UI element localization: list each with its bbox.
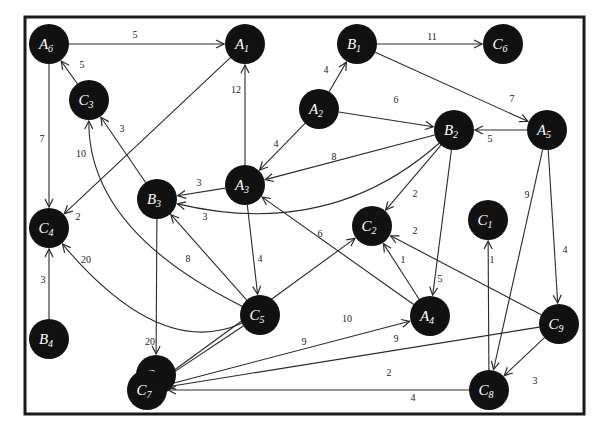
node-a1: A1: [225, 24, 265, 64]
node-c9: C9: [539, 304, 579, 344]
node-c4: C4: [29, 208, 69, 248]
node-b4: B4: [29, 319, 69, 359]
node-b2: B2: [434, 110, 474, 150]
edge-weight-label: 2: [387, 367, 392, 378]
edge-weight-label: 1: [490, 254, 495, 265]
node-c5: C5: [240, 295, 280, 335]
node-a5: A5: [527, 110, 567, 150]
edge-weight-label: 7: [40, 133, 45, 144]
edge-weight-label: 4: [274, 138, 279, 149]
edge-weight-label: 3: [41, 274, 46, 285]
edge-weight-label: 4: [324, 64, 329, 75]
edge-weight-label: 1: [401, 254, 406, 265]
edge-weight-label: 9: [525, 189, 530, 200]
edge-b3-to-b5: [156, 219, 157, 354]
edge-weight-label: 7: [510, 93, 515, 104]
node-b1: B1: [337, 24, 377, 64]
edge-weight-label: 5: [438, 273, 443, 284]
edge-weight-label: 6: [394, 94, 399, 105]
edge-weight-label: 8: [332, 151, 337, 162]
node-a4: A4: [410, 296, 450, 336]
edge-weight-label: 3: [197, 177, 202, 188]
node-b3: B3: [137, 179, 177, 219]
edge-weight-label: 2: [413, 225, 418, 236]
node-a6: A6: [29, 24, 69, 64]
node-c6: C6: [483, 24, 523, 64]
edge-weight-label: 5: [488, 133, 493, 144]
node-a2: A2: [299, 89, 339, 129]
edge-weight-label: 2: [413, 188, 418, 199]
edge-weight-label: 3: [533, 375, 538, 386]
edge-weight-label: 10: [76, 148, 86, 159]
edge-weight-label: 3: [203, 211, 208, 222]
node-c2: C2: [352, 206, 392, 246]
edge-weight-label: 8: [186, 253, 191, 264]
edge-weight-label: 4: [411, 392, 416, 403]
edge-weight-label: 20: [145, 336, 155, 347]
edge-weight-label: 2: [76, 211, 81, 222]
edge-weight-label: 12: [231, 84, 241, 95]
edge-weight-label: 5: [80, 59, 85, 70]
edge-weight-label: 11: [427, 31, 437, 42]
edge-weight-label: 5: [133, 29, 138, 40]
edge-weight-label: 3: [120, 123, 125, 134]
node-c7: C7: [127, 370, 167, 410]
node-c8: C8: [469, 370, 509, 410]
edge-weight-label: 6: [318, 228, 323, 239]
edge-weight-label: 20: [81, 254, 91, 265]
edge-weight-label: 4: [258, 253, 263, 264]
node-c3: C3: [69, 80, 109, 120]
edge-weight-label: 9: [302, 336, 307, 347]
graph-diagram: 5572124117654832533104820320961109219423…: [0, 0, 605, 434]
edge-weight-label: 10: [342, 313, 352, 324]
edge-weight-label: 9: [394, 333, 399, 344]
node-c1: C1: [468, 200, 508, 240]
edge-weight-label: 4: [563, 244, 568, 255]
node-a3: A3: [225, 165, 265, 205]
